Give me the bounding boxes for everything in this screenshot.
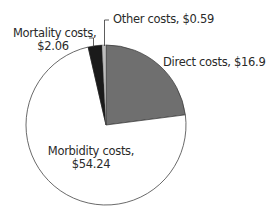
label-other-costs: Other costs, $0.59 xyxy=(113,13,214,26)
label-morbidity-costs: Morbidity costs, $54.24 xyxy=(40,145,142,171)
label-morbidity-costs-line2: $54.24 xyxy=(40,158,142,171)
label-direct-costs: Direct costs, $16.97 xyxy=(163,56,266,69)
label-mortality-costs: Mortality costs, $2.06 xyxy=(13,27,93,53)
label-mortality-costs-line2: $2.06 xyxy=(13,40,93,53)
leader-line-other-costs xyxy=(105,20,110,46)
